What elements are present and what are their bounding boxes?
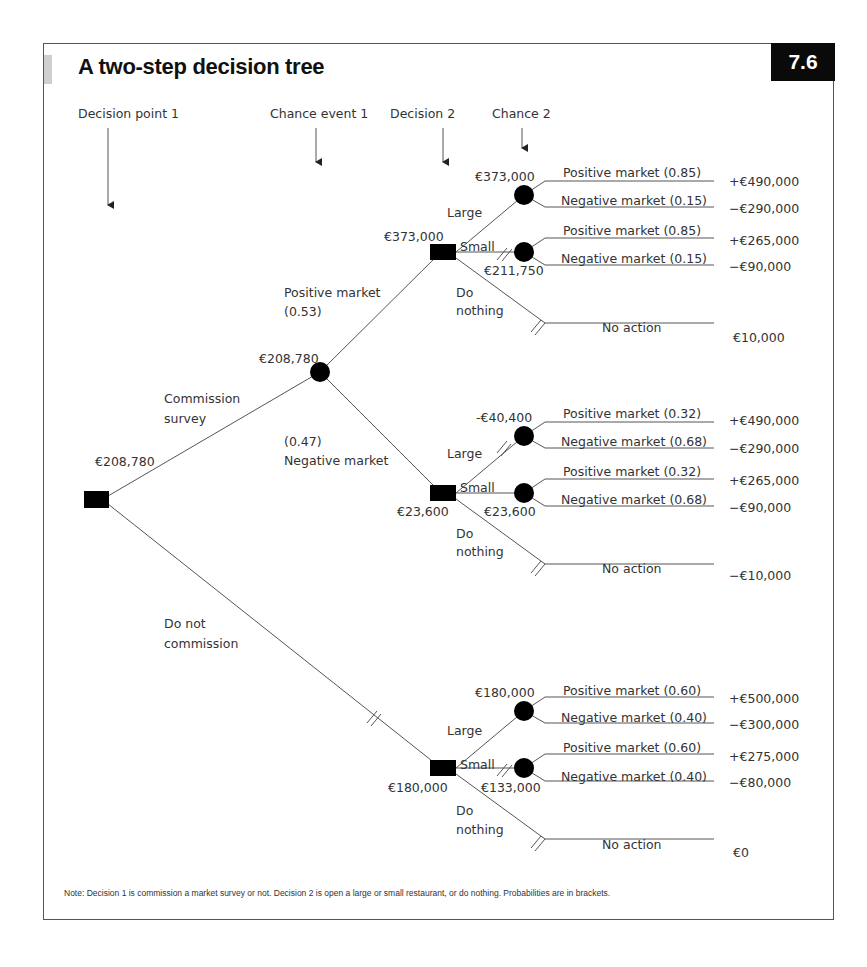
chance-node-2a-large: [514, 185, 534, 205]
decision-tree-diagram: Decision point 1 Chance event 1 Decision…: [0, 0, 867, 967]
outcome-label: Negative market (0.68): [561, 434, 707, 449]
subtree-positive-survey: €373,000 Large Small Do nothing €373,000…: [384, 165, 799, 345]
branch-do-nothing-line1: Do: [456, 803, 473, 818]
chance-node-2b-large: [514, 426, 534, 446]
decision-2b-ev: €23,600: [397, 504, 449, 519]
chance1-ev: €208,780: [259, 351, 319, 366]
branch-do-nothing-line2: nothing: [456, 822, 504, 837]
branch-label-commission-line1: Commission: [164, 391, 240, 406]
outcome-label: Positive market (0.85): [563, 165, 701, 180]
outcome-label: Positive market (0.85): [563, 223, 701, 238]
decision-node-1: [84, 491, 109, 508]
chance-node-2c-large: [514, 701, 534, 721]
outcome-label: Positive market (0.60): [563, 683, 701, 698]
decision-node-2a: [430, 244, 456, 260]
payoff: +€275,000: [729, 749, 799, 764]
branch-large: Large: [447, 723, 482, 738]
decision-2a-ev: €373,000: [384, 229, 444, 244]
branch-label-no-commission-line1: Do not: [164, 616, 206, 631]
payoff: +€490,000: [729, 174, 799, 189]
payoff: −€80,000: [729, 775, 791, 790]
outcome-label: Negative market (0.15): [561, 193, 707, 208]
branch-do-nothing-line1: Do: [456, 526, 473, 541]
large-ev: €180,000: [475, 685, 535, 700]
chance1-negative-line2: Negative market: [284, 453, 389, 468]
branch-do-nothing-line2: nothing: [456, 544, 504, 559]
no-action-label: No action: [602, 837, 661, 852]
chance1-negative-line1: (0.47): [284, 434, 322, 449]
branch-small: Small: [460, 480, 495, 495]
stage-header-decision-2: Decision 2: [390, 106, 455, 121]
outcome-label: Positive market (0.32): [563, 406, 701, 421]
chance1-positive-line2: (0.53): [284, 304, 322, 319]
small-ev: €133,000: [481, 780, 541, 795]
branch-label-commission-line2: survey: [164, 411, 207, 426]
payoff: −€290,000: [729, 441, 799, 456]
subtree-no-survey: €180,000 Large Small Do nothing €180,000…: [388, 683, 799, 860]
small-ev: €211,750: [484, 263, 544, 278]
outcome-label: Negative market (0.40): [561, 710, 707, 725]
chance-node-2b-small: [514, 483, 534, 503]
small-ev: €23,600: [484, 504, 536, 519]
payoff: +€500,000: [729, 691, 799, 706]
branch-small: Small: [460, 757, 495, 772]
decision-node-2c: [430, 760, 456, 776]
branch-label-no-commission-line2: commission: [164, 636, 238, 651]
no-action-label: No action: [602, 561, 661, 576]
payoff: −€10,000: [729, 568, 791, 583]
chance1-positive-line1: Positive market: [284, 285, 381, 300]
chance-node-2c-small: [514, 758, 534, 778]
no-action-label: No action: [602, 320, 661, 335]
figure-note: Note: Decision 1 is commission a market …: [64, 888, 610, 898]
stage-header-decision-1: Decision point 1: [78, 106, 179, 121]
payoff: −€290,000: [729, 201, 799, 216]
decision-node-2b: [430, 485, 456, 501]
stage-headers: Decision point 1 Chance event 1 Decision…: [78, 106, 551, 205]
stage-header-chance-2: Chance 2: [492, 106, 551, 121]
payoff: +€265,000: [729, 233, 799, 248]
chance-node-2a-small: [514, 242, 534, 262]
stage-header-chance-1: Chance event 1: [270, 106, 368, 121]
payoff: €10,000: [733, 330, 785, 345]
outcome-label: Negative market (0.40): [561, 769, 707, 784]
subtree-negative-survey: €23,600 Large Small Do nothing -€40,400 …: [397, 406, 799, 583]
main-branches: [108, 252, 441, 768]
outcome-label: Negative market (0.68): [561, 492, 707, 507]
branch-large: Large: [447, 205, 482, 220]
decision-2c-ev: €180,000: [388, 780, 448, 795]
outcome-label: Positive market (0.60): [563, 740, 701, 755]
branch-small: Small: [460, 239, 495, 254]
branch-do-nothing-line2: nothing: [456, 303, 504, 318]
payoff: +€490,000: [729, 413, 799, 428]
payoff: −€90,000: [729, 259, 791, 274]
branch-do-nothing-line1: Do: [456, 285, 473, 300]
payoff: €0: [733, 845, 749, 860]
payoff: +€265,000: [729, 473, 799, 488]
payoff: −€90,000: [729, 500, 791, 515]
payoff: −€300,000: [729, 717, 799, 732]
large-ev: -€40,400: [476, 410, 532, 425]
root-ev: €208,780: [95, 454, 155, 469]
large-ev: €373,000: [475, 169, 535, 184]
outcome-label: Positive market (0.32): [563, 464, 701, 479]
branch-large: Large: [447, 446, 482, 461]
outcome-label: Negative market (0.15): [561, 251, 707, 266]
